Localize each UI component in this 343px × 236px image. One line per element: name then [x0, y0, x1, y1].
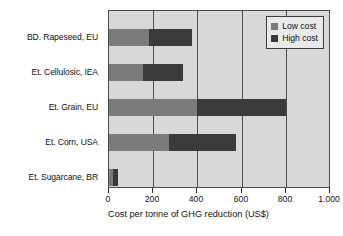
y-axis-labels: BD. Rapeseed, EU Et. Cellulosic, IEA Et.… [0, 10, 104, 188]
y-axis-label-cellulosic: Et. Cellulosic, IEA [0, 67, 98, 77]
legend-label-high-cost: High cost [282, 34, 318, 43]
legend-item-high-cost: High cost [271, 33, 318, 44]
y-axis-label-rapeseed: BD. Rapeseed, EU [0, 32, 98, 42]
x-tick-label-600: 600 [234, 194, 248, 204]
bar-segment-low-grain [109, 99, 197, 116]
legend-swatch-high-cost-icon [271, 35, 278, 42]
bar-segment-low-corn [109, 134, 169, 151]
x-tick-0 [108, 188, 109, 193]
legend-label-low-cost: Low cost [282, 22, 316, 31]
y-axis-label-corn: Et. Corn, USA [0, 137, 98, 147]
chart-figure: BD. Rapeseed, EU Et. Cellulosic, IEA Et.… [0, 0, 343, 236]
plot-area: Low cost High cost [108, 10, 330, 188]
x-axis-title: Cost per tonne of GHG reduction (US$) [0, 208, 343, 220]
x-tick-1000 [329, 188, 330, 193]
x-tick-label-1000: 1.000 [318, 194, 340, 204]
x-tick-600 [241, 188, 242, 193]
bar-segment-low-cellulosic [109, 64, 143, 81]
legend-item-low-cost: Low cost [271, 21, 318, 32]
x-tick-label-0: 0 [106, 194, 111, 204]
bar-segment-low-sugarcane [109, 169, 113, 186]
y-axis-label-sugarcane: Et. Sugarcane, BR [0, 172, 98, 182]
x-tick-label-800: 800 [278, 194, 292, 204]
legend: Low cost High cost [266, 16, 324, 49]
y-axis-label-grain: Et. Grain, EU [0, 102, 98, 112]
x-tick-800 [285, 188, 286, 193]
x-tick-400 [196, 188, 197, 193]
x-tick-label-400: 400 [189, 194, 203, 204]
x-tick-label-200: 200 [145, 194, 159, 204]
x-axis-tick-labels: 0 200 400 600 800 1.000 [0, 194, 343, 206]
bar-segment-low-rapeseed [109, 29, 149, 46]
legend-swatch-low-cost-icon [271, 23, 278, 30]
x-tick-200 [152, 188, 153, 193]
